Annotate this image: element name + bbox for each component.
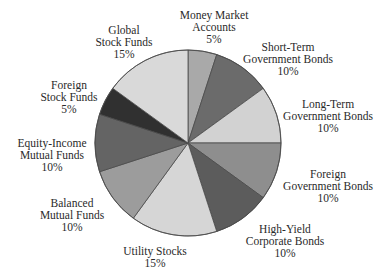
slice-percent: 10% bbox=[243, 65, 333, 77]
slice-percent: 10% bbox=[18, 161, 87, 173]
slice-name-line: Money Market bbox=[180, 9, 249, 21]
slice-percent: 5% bbox=[40, 103, 97, 115]
slice-percent: 10% bbox=[283, 192, 373, 204]
slice-label-global-stock-funds: GlobalStock Funds15% bbox=[95, 24, 152, 60]
slice-label-foreign-government-bonds: ForeignGovernment Bonds10% bbox=[283, 168, 373, 204]
slice-percent: 10% bbox=[283, 122, 373, 134]
slice-label-utility-stocks: Utility Stocks15% bbox=[123, 245, 187, 269]
slice-name-line: Long-Term bbox=[283, 98, 373, 110]
slice-name-line: Government Bonds bbox=[283, 110, 373, 122]
slice-percent: 10% bbox=[246, 247, 324, 259]
slice-label-money-market-accounts: Money MarketAccounts5% bbox=[180, 9, 249, 45]
slice-name-line: Stock Funds bbox=[95, 36, 152, 48]
slice-name-line: Government Bonds bbox=[243, 53, 333, 65]
slice-name-line: Balanced bbox=[40, 197, 104, 209]
slice-name-line: Stock Funds bbox=[40, 91, 97, 103]
slice-percent: 10% bbox=[40, 221, 104, 233]
slice-name-line: Foreign bbox=[40, 79, 97, 91]
slice-name-line: Utility Stocks bbox=[123, 245, 187, 257]
slice-label-balanced-mutual-funds: BalancedMutual Funds10% bbox=[40, 197, 104, 233]
slice-label-equity-income-mutual-funds: Equity-IncomeMutual Funds10% bbox=[18, 137, 87, 173]
slice-name-line: Government Bonds bbox=[283, 180, 373, 192]
slice-name-line: Mutual Funds bbox=[40, 209, 104, 221]
slice-label-foreign-stock-funds: ForeignStock Funds5% bbox=[40, 79, 97, 115]
slice-percent: 15% bbox=[95, 48, 152, 60]
slice-label-high-yield-corporate-bonds: High-YieldCorporate Bonds10% bbox=[246, 223, 324, 259]
slice-label-long-term-government-bonds: Long-TermGovernment Bonds10% bbox=[283, 98, 373, 134]
slice-name-line: High-Yield bbox=[246, 223, 324, 235]
slice-name-line: Corporate Bonds bbox=[246, 235, 324, 247]
slice-name-line: Equity-Income bbox=[18, 137, 87, 149]
slice-name-line: Accounts bbox=[180, 21, 249, 33]
slice-percent: 5% bbox=[180, 33, 249, 45]
slice-name-line: Mutual Funds bbox=[18, 149, 87, 161]
slice-percent: 15% bbox=[123, 257, 187, 269]
slice-name-line: Short-Term bbox=[243, 41, 333, 53]
slice-label-short-term-government-bonds: Short-TermGovernment Bonds10% bbox=[243, 41, 333, 77]
slice-name-line: Foreign bbox=[283, 168, 373, 180]
slice-name-line: Global bbox=[95, 24, 152, 36]
